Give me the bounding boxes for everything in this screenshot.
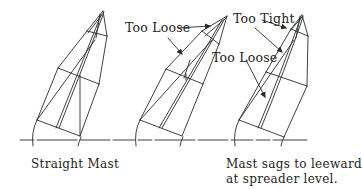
caption-mast-sags-line2: at spreader level. xyxy=(226,172,338,187)
mast-straight xyxy=(33,11,108,146)
label-too-loose-upper: Too Loose xyxy=(125,21,190,35)
label-too-tight: Too Tight xyxy=(233,12,295,26)
caption-mast-sags-line1: Mast sags to leeward xyxy=(226,157,362,172)
caption-straight-mast: Straight Mast xyxy=(31,157,119,172)
label-too-loose-lower: Too Loose xyxy=(212,51,277,65)
mast-sagging xyxy=(235,15,309,146)
mast-middle xyxy=(136,16,228,146)
